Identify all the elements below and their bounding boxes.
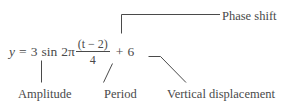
equation-vertical-shift: 6 <box>127 45 134 59</box>
equation-equals-sign: = <box>19 45 27 59</box>
equation-function-name: sin <box>41 45 57 59</box>
annotation-label-phase-shift: Phase shift <box>222 10 277 23</box>
annotation-label-amplitude: Amplitude <box>18 88 71 101</box>
leader-line-period <box>104 64 113 83</box>
figure-canvas: y = 3 sin 2π (t − 2) 4 + 6 Phase shift A… <box>0 0 296 105</box>
equation-plus-sign: + <box>116 45 124 59</box>
equation-fraction: (t − 2) 4 <box>76 38 110 66</box>
leader-line-phase-shift <box>122 15 221 34</box>
equation-lhs-variable: y <box>9 45 15 59</box>
equation-amplitude-coefficient: 3 <box>31 45 38 59</box>
fraction-numerator: (t − 2) <box>76 38 110 51</box>
annotation-label-vertical-displacement: Vertical displacement <box>167 88 275 101</box>
leader-line-vertical-displacement <box>149 57 187 83</box>
equation: y = 3 sin 2π (t − 2) 4 + 6 <box>9 38 138 66</box>
fraction-denominator: 4 <box>88 52 98 66</box>
equation-angular-factor: 2π <box>61 45 75 59</box>
annotation-label-period: Period <box>104 88 137 101</box>
